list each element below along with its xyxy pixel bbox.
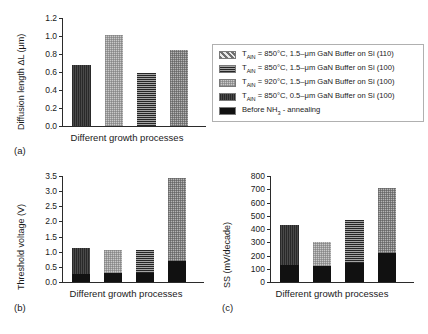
y-axis-tick-label: 1.0	[24, 32, 57, 41]
legend-swatch-black-solid-icon	[219, 107, 236, 115]
legend-item: TAlN = 920°C, 1.5–μm GaN Buffer on Si (1…	[219, 78, 394, 88]
legend-swatch-horizontal-lines-icon	[219, 65, 236, 73]
y-axis-tick-label: 0.6	[24, 68, 57, 77]
panel-b-tag: (b)	[14, 302, 26, 313]
chart-panel-b: Threshold voltage (V) 0.00.51.01.52.02.5…	[0, 162, 214, 334]
panel-a-plot-area: 0.00.20.40.60.81.01.2	[62, 18, 192, 126]
bar	[104, 250, 122, 282]
y-axis-tick	[267, 176, 270, 177]
bar-segment	[105, 35, 123, 126]
bar	[313, 242, 331, 282]
legend-label: TAlN = 850°C, 1.5–μm GaN Buffer on Si (1…	[242, 64, 394, 74]
legend-item: Before NH3 - annealing	[219, 106, 320, 116]
y-axis-tick-label: 3.0	[24, 187, 57, 196]
bar-segment-top	[280, 225, 298, 265]
bar-segment-top	[104, 250, 122, 273]
y-axis-tick	[267, 256, 270, 257]
y-axis-tick	[59, 267, 62, 268]
panel-b-x-axis-label: Different growth processes	[42, 288, 210, 299]
y-axis-line	[62, 18, 63, 126]
y-axis-tick	[267, 269, 270, 270]
x-axis-line	[270, 282, 414, 283]
bar	[170, 50, 188, 127]
bar-segment-base	[280, 265, 298, 282]
y-axis-tick-label: 100	[232, 265, 265, 274]
legend-box: TAlN = 850°C, 1.5–μm GaN Buffer on Si (1…	[212, 44, 424, 122]
bar-segment	[72, 65, 90, 126]
y-axis-tick-label: 2.5	[24, 202, 57, 211]
legend-swatch-diagonal-hatch-icon	[219, 51, 236, 59]
y-axis-tick	[267, 242, 270, 243]
panel-c-y-axis-label: SS (mV/decade)	[222, 222, 232, 288]
y-axis-tick-label: 2.0	[24, 217, 57, 226]
y-axis-tick-label: 0.8	[24, 50, 57, 59]
bar-segment-top	[72, 248, 90, 273]
y-axis-tick	[59, 252, 62, 253]
y-axis-tick	[59, 54, 62, 55]
legend-label: TAlN = 850°C, 1.5–μm GaN Buffer on Si (1…	[242, 50, 394, 60]
panel-a-y-axis-label: Diffusion length ΔL (μm)	[16, 34, 26, 130]
bar-segment-base	[168, 261, 186, 282]
legend-label: TAlN = 920°C, 1.5–μm GaN Buffer on Si (1…	[242, 78, 394, 88]
legend-label: TAlN = 850°C, 0.5–μm GaN Buffer on Si (1…	[242, 92, 394, 102]
y-axis-tick-label: 0	[232, 278, 265, 287]
y-axis-tick	[59, 221, 62, 222]
bar-segment-top	[136, 250, 154, 273]
bar-segment-base	[72, 274, 90, 282]
panel-a-tag: (a)	[14, 145, 26, 156]
y-axis-tick-label: 500	[232, 212, 265, 221]
x-axis-line	[62, 126, 206, 127]
bar-segment-base	[378, 253, 396, 282]
panel-c-tag: (c)	[222, 302, 233, 313]
y-axis-line	[62, 176, 63, 282]
bar	[168, 178, 186, 282]
bar-segment-top	[168, 178, 186, 261]
y-axis-tick	[59, 72, 62, 73]
bar	[280, 225, 298, 282]
y-axis-line	[270, 176, 271, 282]
y-axis-tick-label: 0.0	[24, 122, 57, 131]
y-axis-tick	[59, 108, 62, 109]
x-axis-line	[62, 282, 204, 283]
y-axis-tick-label: 300	[232, 238, 265, 247]
y-axis-tick-label: 700	[232, 185, 265, 194]
y-axis-tick-label: 600	[232, 199, 265, 208]
y-axis-tick	[59, 206, 62, 207]
bar-segment-top	[345, 220, 363, 263]
legend-label: Before NH3 - annealing	[242, 106, 320, 116]
y-axis-tick	[59, 237, 62, 238]
legend-item: TAlN = 850°C, 1.5–μm GaN Buffer on Si (1…	[219, 64, 394, 74]
y-axis-tick	[59, 282, 62, 283]
y-axis-tick	[267, 203, 270, 204]
y-axis-tick-label: 0.0	[24, 278, 57, 287]
panel-c-plot-area: 0100200300400500600700800	[270, 176, 400, 282]
y-axis-tick	[267, 282, 270, 283]
chart-panel-a: Diffusion length ΔL (μm) 0.00.20.40.60.8…	[0, 0, 214, 160]
bar	[345, 220, 363, 282]
bar	[136, 250, 154, 282]
bar-segment-top	[313, 242, 331, 266]
bar	[378, 188, 396, 282]
y-axis-tick	[59, 90, 62, 91]
bar	[137, 73, 155, 126]
bar-segment-top	[378, 188, 396, 253]
legend-swatch-vertical-hatch-icon	[219, 93, 236, 101]
y-axis-tick	[59, 36, 62, 37]
y-axis-tick	[267, 216, 270, 217]
legend-item: TAlN = 850°C, 1.5–μm GaN Buffer on Si (1…	[219, 50, 394, 60]
panel-b-plot-area: 0.00.51.01.52.02.53.03.5	[62, 176, 190, 282]
bar	[72, 248, 90, 282]
y-axis-tick-label: 0.2	[24, 104, 57, 113]
y-axis-tick-label: 1.0	[24, 248, 57, 257]
y-axis-tick-label: 1.2	[24, 14, 57, 23]
y-axis-tick	[59, 126, 62, 127]
bar-segment-base	[345, 263, 363, 282]
bar-segment-base	[136, 273, 154, 282]
y-axis-tick-label: 0.5	[24, 263, 57, 272]
y-axis-tick	[267, 229, 270, 230]
y-axis-tick-label: 1.5	[24, 233, 57, 242]
bar-segment-base	[313, 266, 331, 282]
bar	[72, 65, 90, 126]
legend-item: TAlN = 850°C, 0.5–μm GaN Buffer on Si (1…	[219, 92, 394, 102]
chart-panel-c: SS (mV/decade) 0100200300400500600700800…	[214, 162, 428, 334]
